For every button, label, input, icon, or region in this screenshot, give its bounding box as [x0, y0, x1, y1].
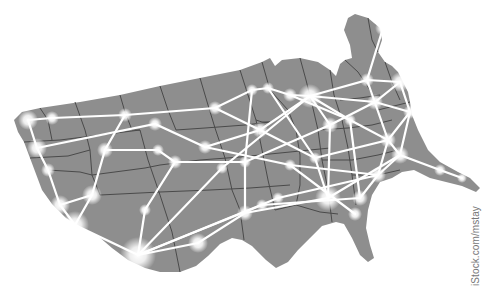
- network-map-illustration: iStock.com/mstay: [0, 0, 504, 290]
- image-credit: iStock.com/mstay: [470, 206, 481, 286]
- us-map-svg: [0, 0, 504, 290]
